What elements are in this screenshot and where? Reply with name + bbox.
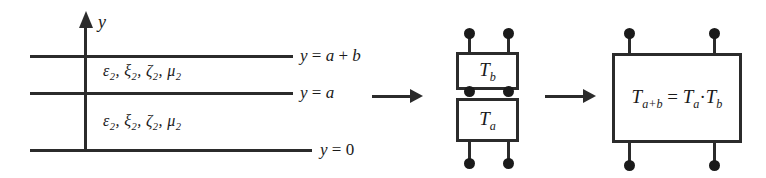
terminal-node-bottom-left-right (624, 160, 635, 171)
equation-lhs-base: T (632, 86, 643, 107)
block-tb-label: Tb (479, 60, 496, 83)
boundary-line-zero (30, 149, 312, 152)
boundary-label-zero-text: y (320, 140, 328, 159)
boundary-label-a-plus-b: y = a + b (300, 47, 361, 64)
block-ta: Ta (456, 98, 519, 142)
block-ta-base: T (479, 108, 490, 129)
y-axis-arrowhead-icon (79, 11, 93, 28)
equation-rhs-first-base: T (683, 86, 694, 107)
layer-parameters-lower: ε2, ξ2, ζ2, μ2 (103, 113, 181, 133)
boundary-label-a-plus-b-text: y (300, 46, 308, 65)
equals-sign-zero: = (328, 140, 346, 159)
boundary-line-a-plus-b (30, 55, 293, 58)
equation-rhs-second-sub: b (716, 96, 722, 110)
value-a-2: a (326, 83, 335, 102)
junction-node-right-middle (503, 86, 514, 97)
boundary-label-a-text: y (300, 83, 308, 102)
equation-lhs-sub: a+b (642, 96, 662, 110)
terminal-node-top-left-right (624, 28, 635, 39)
block-tb-base: T (479, 59, 490, 80)
y-axis-line (84, 24, 87, 152)
terminal-node-bottom-right-right (709, 160, 720, 171)
terminal-node-top-right-right (709, 28, 720, 39)
equation-rhs-second-base: T (706, 86, 717, 107)
layer-parameters-upper: ε2, ξ2, ζ2, μ2 (103, 63, 181, 83)
value-a: a (326, 46, 335, 65)
block-ta-label: Ta (479, 109, 496, 132)
terminal-node-top-right-middle (503, 28, 514, 39)
block-ta-sub: a (490, 118, 496, 132)
block-ta-plus-b: Ta+b = Ta·Tb (612, 53, 742, 143)
equals-sign: = (308, 46, 326, 65)
junction-node-left-middle (464, 86, 475, 97)
plus-sign: + (334, 46, 352, 65)
value-b: b (352, 46, 361, 65)
boundary-line-a (30, 92, 293, 95)
terminal-node-top-left-middle (464, 28, 475, 39)
block-ta-plus-b-equation: Ta+b = Ta·Tb (632, 87, 723, 110)
block-tb: Tb (456, 52, 519, 90)
value-zero: 0 (346, 140, 355, 159)
equals-sign-a: = (308, 83, 326, 102)
physics-figure: y y = a + b ε2, ξ2, ζ2, μ2 y = a ε2, ξ2,… (0, 0, 766, 178)
terminal-node-bottom-right-middle (503, 158, 514, 169)
boundary-label-a: y = a (300, 84, 334, 101)
boundary-label-zero: y = 0 (320, 141, 354, 158)
terminal-node-bottom-left-middle (464, 158, 475, 169)
equation-equals: = (663, 86, 683, 107)
block-tb-sub: b (490, 69, 496, 83)
y-axis-label: y (98, 13, 106, 31)
